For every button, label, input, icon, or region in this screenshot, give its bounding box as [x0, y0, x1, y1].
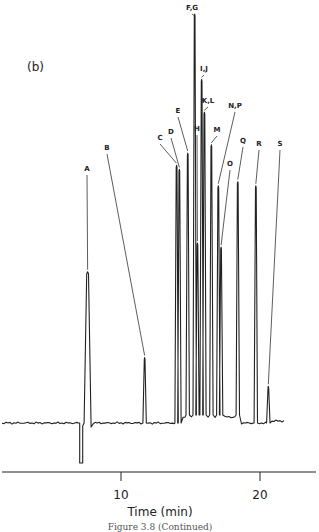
x-axis-title: Time (min) [127, 505, 192, 519]
peak-label-Q: Q [240, 137, 246, 145]
peak-label-S: S [277, 140, 282, 148]
leader-line [202, 75, 204, 77]
leader-line [204, 107, 208, 110]
peak-label-D: D [168, 128, 174, 136]
peak-label-M: M [214, 126, 221, 134]
leader-line [211, 136, 217, 143]
peak-label-E: E [176, 107, 181, 115]
leader-line [218, 112, 235, 184]
peak-label-NP: N,P [228, 102, 242, 110]
peak-label-A: A [84, 165, 90, 173]
chromatogram-line [2, 14, 284, 463]
peak-label-H: H [194, 125, 200, 133]
peak-label-FG: F,G [186, 4, 198, 12]
peak-labels: ABCDEF,GHI,JK,LMN,POQRS [84, 4, 282, 173]
leader-line [171, 138, 179, 167]
x-tick-label: 10 [113, 488, 128, 502]
peak-label-R: R [256, 140, 262, 148]
leader-line [221, 170, 230, 245]
chromatogram-trace [2, 14, 284, 463]
panel-label: (b) [27, 60, 44, 74]
leader-line [268, 150, 280, 384]
peak-label-C: C [157, 134, 162, 142]
leader-line [178, 117, 188, 151]
figure-caption: Figure 3.8 (Continued) [108, 522, 213, 532]
leader-line [87, 175, 88, 270]
leader-line [256, 150, 259, 184]
peak-label-O: O [227, 160, 233, 168]
peak-label-B: B [104, 144, 109, 152]
leader-line [238, 147, 243, 180]
leader-line [160, 144, 177, 163]
peak-label-IJ: I,J [200, 65, 208, 73]
leader-line [107, 154, 145, 356]
x-tick-label: 20 [252, 488, 267, 502]
x-axis [2, 472, 316, 481]
peak-label-KL: K,L [202, 97, 215, 105]
peak-leader-lines [87, 14, 280, 384]
